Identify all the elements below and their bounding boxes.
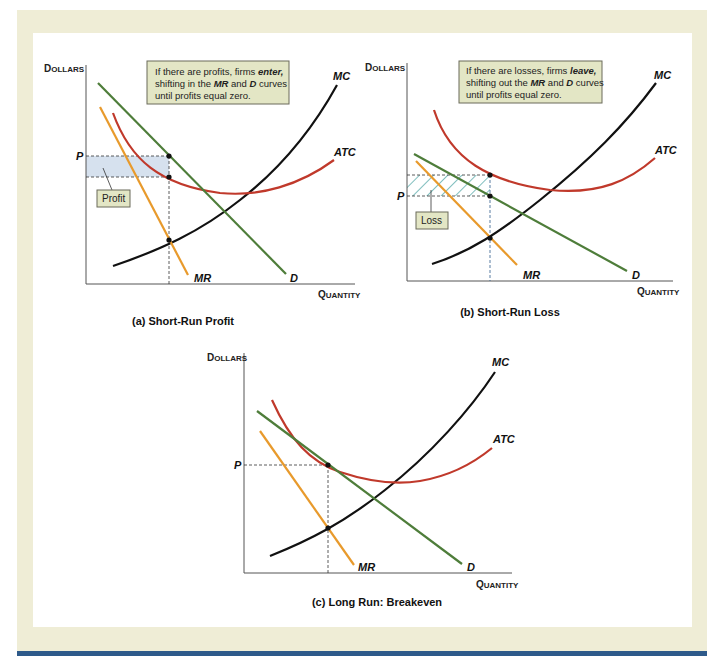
mc-curve: [432, 83, 656, 264]
d-label: D: [290, 272, 298, 284]
price-point: [487, 193, 492, 198]
loss-area: [407, 175, 490, 196]
atc-label: ATC: [654, 144, 678, 156]
mr-mc-point: [166, 237, 171, 242]
mr-mc-point: [325, 525, 330, 530]
panel-c-long-run-breakeven: DOLLARS QUANTITY P MC ATC MR D (c) Long …: [207, 352, 519, 608]
price-point: [166, 153, 171, 158]
note-line-3: until profits equal zero.: [466, 89, 562, 100]
price-label: P: [234, 459, 242, 471]
mr-mc-point: [487, 235, 492, 240]
d-label: D: [467, 561, 475, 573]
note-line-2: shifting out the MR and D curves: [466, 77, 604, 88]
atc-point: [487, 172, 492, 177]
mr-label: MR: [358, 561, 375, 573]
y-axis-label: DOLLARS: [207, 352, 248, 363]
atc-curve: [113, 113, 334, 194]
d-label: D: [632, 269, 640, 281]
mr-label: MR: [194, 272, 211, 284]
mc-label: MC: [654, 69, 672, 81]
atc-point: [166, 174, 171, 179]
mc-curve: [270, 372, 495, 556]
loss-tag-label: Loss: [421, 215, 442, 226]
mr-label: MR: [523, 269, 540, 281]
price-label: P: [76, 150, 84, 162]
note-line-2: shifting in the MR and D curves: [155, 78, 287, 89]
demand-curve: [257, 411, 462, 564]
panel-b-short-run-loss: DOLLARS QUANTITY P MC ATC MR D If there …: [365, 61, 680, 318]
mc-label: MC: [492, 356, 510, 368]
monopolistic-competition-diagrams: DOLLARS QUANTITY P MC ATC MR D If there …: [0, 0, 721, 665]
tangency-point: [325, 462, 330, 467]
note-line-1: If there are profits, firms enter,: [155, 66, 283, 77]
note-line-3: until profits equal zero.: [155, 90, 251, 101]
atc-curve: [272, 400, 492, 483]
y-axis-label: DOLLARS: [44, 63, 85, 74]
panel-caption: (b) Short-Run Loss: [460, 306, 560, 318]
atc-label: ATC: [333, 146, 357, 158]
note-line-1: If there are losses, firms leave,: [466, 65, 596, 76]
x-axis-label: QUANTITY: [318, 289, 361, 300]
panel-a-short-run-profit: DOLLARS QUANTITY P MC ATC MR D If there …: [44, 61, 361, 327]
price-label: P: [397, 190, 405, 202]
profit-tag-label: Profit: [102, 193, 126, 204]
demand-curve: [98, 83, 286, 274]
panel-caption: (a) Short-Run Profit: [132, 315, 234, 327]
mr-curve: [260, 431, 354, 565]
x-axis-label: QUANTITY: [637, 286, 680, 297]
atc-label: ATC: [492, 433, 516, 445]
x-axis-label: QUANTITY: [476, 579, 519, 590]
mc-label: MC: [333, 70, 351, 82]
y-axis-label: DOLLARS: [365, 62, 406, 73]
panel-caption: (c) Long Run: Breakeven: [312, 596, 442, 608]
